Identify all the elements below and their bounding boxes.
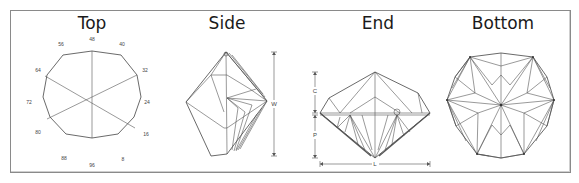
- crown-label: C: [313, 88, 318, 94]
- index-label: 72: [26, 99, 32, 105]
- index-label: 96: [89, 162, 95, 168]
- gem-diagram-drawing: 48 40 32 24 16 8 96 88 80 72 64 56: [0, 0, 579, 183]
- index-label: 32: [142, 67, 148, 73]
- width-label: W: [271, 101, 277, 107]
- index-label: 16: [143, 131, 149, 137]
- index-label: 80: [35, 129, 41, 135]
- index-label: 40: [119, 41, 125, 47]
- end-view: C P L: [312, 72, 430, 168]
- index-label: 48: [89, 36, 95, 42]
- index-label: 64: [35, 67, 41, 73]
- bottom-view: [446, 53, 555, 158]
- side-view: W: [186, 52, 277, 156]
- index-label: 8: [122, 156, 125, 162]
- index-label: 24: [144, 99, 150, 105]
- top-view: 48 40 32 24 16 8 96 88 80 72 64 56: [26, 36, 150, 168]
- index-label: 88: [61, 155, 67, 161]
- pavilion-label: P: [313, 132, 317, 138]
- index-label: 56: [58, 41, 64, 47]
